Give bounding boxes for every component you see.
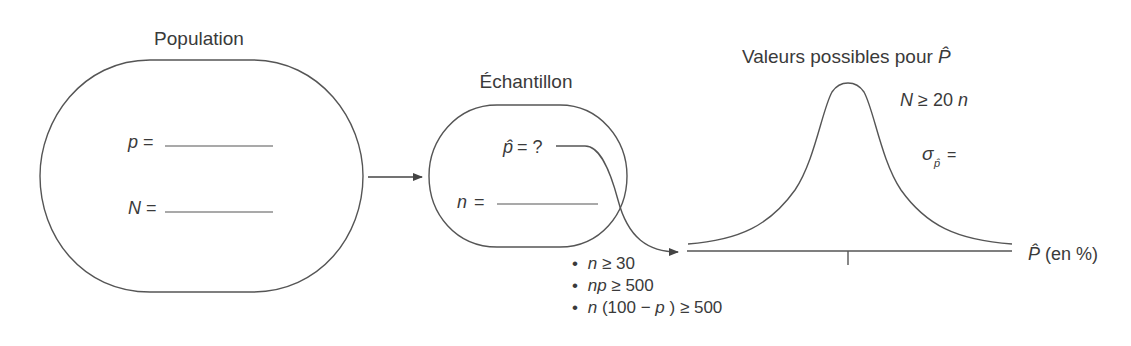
sample-n-equals: =	[474, 192, 485, 212]
conditions-list: • n ≥ 30 • np ≥ 500 • n (100 − p ) ≥ 500	[572, 254, 722, 317]
population-p-equals: =	[143, 132, 154, 152]
sample-phat-label: p̂	[502, 137, 513, 157]
sample-n-label: n	[457, 192, 467, 212]
sample-shape	[429, 105, 627, 247]
distribution-group: Valeurs possibles pour P̂ N ≥ 20 n σ p̂ …	[687, 46, 1098, 265]
population-N-equals: =	[146, 198, 157, 218]
population-title: Population	[154, 28, 244, 49]
sample-group: Échantillon p̂ = ? n =	[429, 71, 627, 247]
sigma-subscript: p̂	[933, 157, 940, 169]
population-shape	[40, 60, 363, 292]
sampling-distribution-diagram: Population p = N = Échantillon p̂ = ? n …	[0, 0, 1131, 346]
sample-title: Échantillon	[480, 71, 573, 92]
population-N-label: N	[128, 198, 142, 218]
condition-item: • n (100 − p ) ≥ 500	[572, 298, 722, 317]
sample-phat-value: = ?	[517, 137, 543, 157]
condition-item: • n ≥ 30	[572, 254, 635, 273]
population-p-label: p	[127, 132, 138, 152]
arrow-sample-to-distribution	[556, 146, 678, 252]
population-size-condition: N ≥ 20 n	[900, 90, 968, 110]
sigma-equals: =	[947, 146, 956, 163]
distribution-title: Valeurs possibles pour P̂	[742, 46, 951, 67]
population-group: Population p = N =	[40, 28, 363, 292]
x-axis-label: P̂ (en %)	[1028, 243, 1098, 264]
condition-item: • np ≥ 500	[572, 276, 654, 295]
